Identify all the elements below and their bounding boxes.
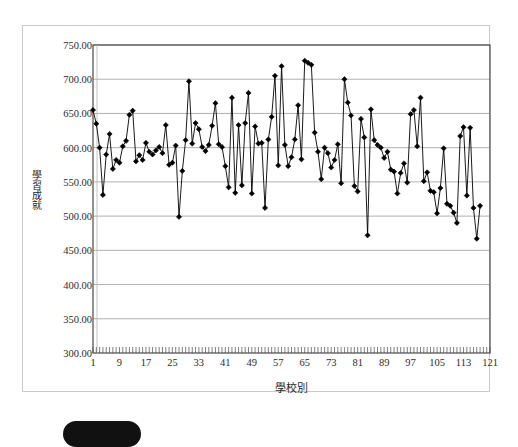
data-point-marker (176, 214, 181, 219)
data-point-marker (246, 90, 251, 95)
data-point-marker (312, 130, 317, 135)
data-point-marker (196, 127, 201, 132)
data-point-marker (382, 155, 387, 160)
data-point-marker (213, 101, 218, 106)
plot-frame (93, 45, 490, 353)
data-point-marker (223, 164, 228, 169)
data-point-marker (100, 192, 105, 197)
data-point-marker (210, 123, 215, 128)
data-point-marker (233, 190, 238, 195)
data-series (90, 58, 482, 241)
data-point-marker (332, 157, 337, 162)
data-point-marker (345, 100, 350, 105)
data-point-marker (272, 73, 277, 78)
data-point-marker (418, 95, 423, 100)
data-point-marker (325, 151, 330, 156)
data-point-marker (296, 103, 301, 108)
data-point-marker (454, 220, 459, 225)
data-point-marker (143, 140, 148, 145)
data-point-marker (299, 157, 304, 162)
data-point-marker (322, 145, 327, 150)
data-point-marker (372, 138, 377, 143)
data-point-marker (110, 166, 115, 171)
data-point-marker (405, 180, 410, 185)
data-point-marker (441, 146, 446, 151)
data-point-marker (206, 142, 211, 147)
data-point-marker (461, 125, 466, 130)
data-point-marker (183, 138, 188, 143)
data-point-marker (140, 157, 145, 162)
data-point-marker (133, 159, 138, 164)
data-point-marker (229, 95, 234, 100)
data-point-marker (335, 142, 340, 147)
data-point-marker (438, 185, 443, 190)
data-point-marker (395, 191, 400, 196)
data-point-marker (163, 122, 168, 127)
data-point-marker (342, 77, 347, 82)
page-number-pill (63, 421, 141, 447)
data-point-marker (468, 125, 473, 130)
data-point-marker (477, 203, 482, 208)
data-point-marker (329, 165, 334, 170)
data-point-marker (269, 114, 274, 119)
data-point-marker (276, 163, 281, 168)
data-point-marker (385, 149, 390, 154)
data-point-marker (249, 191, 254, 196)
data-point-marker (339, 181, 344, 186)
data-point-marker (415, 144, 420, 149)
data-point-marker (160, 151, 165, 156)
data-point-marker (253, 124, 258, 129)
data-point-marker (474, 236, 479, 241)
data-point-marker (319, 177, 324, 182)
data-point-marker (104, 152, 109, 157)
data-point-marker (243, 120, 248, 125)
data-point-marker (421, 179, 426, 184)
data-point-marker (120, 144, 125, 149)
data-point-marker (458, 133, 463, 138)
data-point-marker (236, 122, 241, 127)
data-point-marker (365, 233, 370, 238)
data-point-marker (355, 189, 360, 194)
data-point-marker (289, 155, 294, 160)
data-point-marker (107, 131, 112, 136)
data-point-marker (123, 138, 128, 143)
data-point-marker (451, 210, 456, 215)
data-point-marker (266, 137, 271, 142)
data-point-marker (239, 183, 244, 188)
data-point-marker (368, 107, 373, 112)
data-point-marker (464, 193, 469, 198)
data-point-marker (362, 135, 367, 140)
data-point-marker (97, 145, 102, 150)
data-point-marker (292, 137, 297, 142)
gridlines (93, 45, 490, 319)
data-point-marker (398, 170, 403, 175)
data-point-marker (282, 142, 287, 147)
data-point-marker (425, 170, 430, 175)
data-point-marker (401, 161, 406, 166)
data-point-marker (352, 183, 357, 188)
data-point-marker (226, 185, 231, 190)
data-point-marker (358, 116, 363, 121)
data-point-marker (434, 211, 439, 216)
data-point-marker (193, 120, 198, 125)
data-point-marker (262, 205, 267, 210)
data-point-marker (286, 164, 291, 169)
data-point-marker (137, 153, 142, 158)
x-axis-ticks (93, 347, 490, 353)
data-point-marker (279, 64, 284, 69)
data-point-marker (315, 149, 320, 154)
data-point-marker (471, 205, 476, 210)
data-point-marker (190, 141, 195, 146)
data-point-marker (180, 168, 185, 173)
data-point-marker (94, 121, 99, 126)
data-point-marker (90, 107, 95, 112)
